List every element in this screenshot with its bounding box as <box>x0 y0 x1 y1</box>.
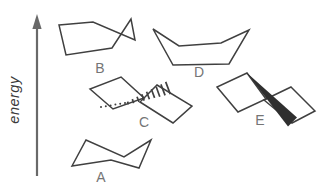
conformation-label-A: A <box>96 169 106 185</box>
conformation-B-half-chair: B <box>59 19 135 76</box>
left-ring-plane-shape <box>90 77 144 109</box>
conformation-label-D: D <box>194 64 204 80</box>
conformation-label-B: B <box>95 60 104 76</box>
conformation-D-boat: D <box>153 29 249 80</box>
half-chair-shape <box>59 19 135 55</box>
energy-arrow-head-icon <box>32 14 41 29</box>
chair-shape <box>72 140 151 168</box>
boat-shape <box>153 29 249 65</box>
conformation-energy-figure: energy B D C E A <box>0 0 332 190</box>
conformation-A-chair: A <box>72 140 151 185</box>
energy-axis-label: energy <box>6 76 22 124</box>
conformation-label-C: C <box>139 114 149 130</box>
energy-axis: energy <box>6 14 42 176</box>
solid-wedge-bond <box>247 73 298 127</box>
conformation-label-E: E <box>255 112 264 128</box>
left-ring-plane-shape <box>217 73 266 112</box>
energy-diagram: energy B D C E A <box>0 0 332 190</box>
conformation-E-twist-boat-wedge: E <box>217 73 315 129</box>
conformation-C-twist-boat-hashed: C <box>90 77 192 130</box>
